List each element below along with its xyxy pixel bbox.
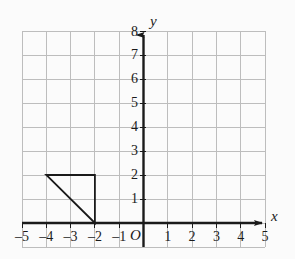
origin-label: O [130, 228, 141, 243]
plot-canvas [0, 0, 295, 259]
y-tick-label-7: 7 [131, 48, 138, 62]
x-tick-label-neg4: –4 [39, 230, 53, 244]
coordinate-plane-figure: –5 –4 –3 –2 –1 1 2 3 4 5 1 2 3 4 5 6 7 8… [0, 0, 295, 259]
y-tick-label-4: 4 [131, 120, 138, 134]
y-tick-label-8: 8 [131, 25, 138, 39]
x-tick-label-neg3: –3 [64, 230, 78, 244]
y-tick-label-1: 1 [131, 192, 138, 206]
x-tick-label-2: 2 [189, 230, 196, 244]
y-axis-label: y [150, 14, 157, 29]
y-tick-label-3: 3 [131, 144, 138, 158]
x-tick-label-neg5: –5 [15, 230, 29, 244]
y-tick-label-5: 5 [131, 96, 138, 110]
x-tick-label-5: 5 [262, 230, 269, 244]
x-axis-label: x [271, 209, 278, 224]
x-tick-label-neg2: –2 [88, 230, 102, 244]
y-tick-label-2: 2 [131, 168, 138, 182]
x-tick-label-4: 4 [237, 230, 244, 244]
y-tick-label-6: 6 [131, 72, 138, 86]
x-tick-label-neg1: –1 [112, 230, 126, 244]
x-tick-label-1: 1 [164, 230, 171, 244]
x-tick-label-3: 3 [213, 230, 220, 244]
